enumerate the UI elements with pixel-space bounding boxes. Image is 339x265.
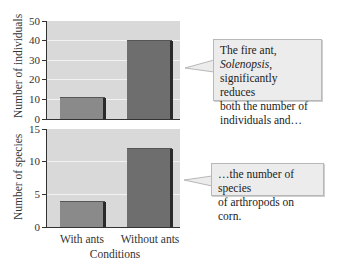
tick — [42, 227, 46, 228]
bottom-x-axis — [46, 227, 180, 228]
x-axis-label: Conditions — [80, 248, 150, 260]
tick — [42, 40, 46, 41]
top-y-axis-label: Number of individuals — [12, 14, 24, 118]
x-category-without-ants: Without ants — [118, 233, 182, 245]
bottom-y-axis — [46, 129, 47, 228]
y-tick-label: 0 — [20, 222, 40, 233]
top-y-axis — [46, 21, 47, 120]
bottom-y-axis-label: Number of species — [12, 134, 24, 220]
callout-pointer-bottom — [0, 0, 1, 1]
tick — [42, 129, 46, 130]
bar-with-ants-individuals — [60, 97, 103, 119]
bar-with-ants-species — [60, 201, 103, 227]
callout-species: …the number of species of arthropods on … — [211, 163, 324, 196]
top-x-axis — [46, 119, 180, 120]
tick — [42, 161, 46, 162]
bar-without-ants-species — [127, 148, 170, 227]
tick — [42, 21, 46, 22]
tick — [42, 99, 46, 100]
bar-without-ants-individuals — [127, 40, 170, 119]
tick — [42, 194, 46, 195]
x-category-with-ants: With ants — [55, 233, 109, 245]
tick — [42, 60, 46, 61]
tick — [42, 79, 46, 80]
tick — [42, 119, 46, 120]
callout-individuals: The fire ant, Solenopsis, significantly … — [213, 39, 322, 101]
